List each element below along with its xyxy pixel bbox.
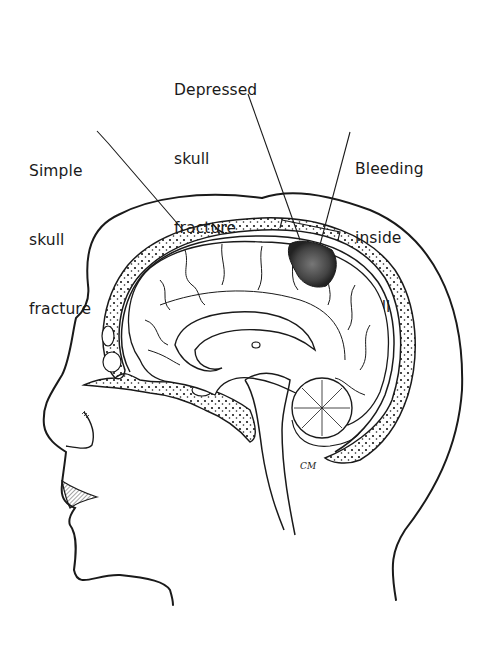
head-illustration: CM	[0, 0, 488, 650]
artist-signature: CM	[300, 461, 317, 471]
leader-simple-fracture	[97, 131, 183, 230]
nose-detail	[66, 411, 93, 448]
facial-bones	[84, 374, 255, 442]
brainstem	[245, 373, 295, 535]
